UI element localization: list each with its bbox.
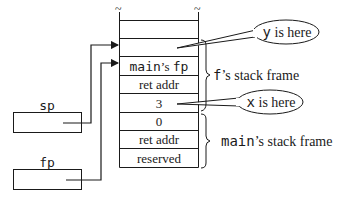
stack-cell-main-fp: main’s fp [130,59,189,74]
sp-pointer-arrow [63,45,118,123]
fp-pointer-arrow [66,63,118,180]
sp-register: sp [14,45,119,133]
fp-label: fp [39,155,55,170]
f-stack-frame-label: f’s stack frame [213,67,299,83]
continuation-mark-left: ~ [115,2,122,16]
stack-cell-reserved: reserved [137,151,182,166]
stack-cell-value-3: 3 [156,96,163,111]
fp-register: fp [14,63,119,190]
continuation-mark-right: ~ [194,2,201,16]
stack-cell-value-0: 0 [156,114,163,129]
main-frame-brace [201,114,210,168]
stack-cell-ret-addr-main: ret addr [139,132,180,147]
sp-label: sp [39,98,55,113]
stack-cell-ret-addr-f: ret addr [139,77,180,92]
callout-x-text: x is here [247,94,296,110]
stack-frame-diagram: ~ ~ main’s fp ret addr 3 0 ret addr rese… [0,0,353,200]
main-stack-frame-label: main’s stack frame [221,133,332,149]
f-frame-brace [201,40,210,111]
callout-y-text: y is here [263,24,312,40]
